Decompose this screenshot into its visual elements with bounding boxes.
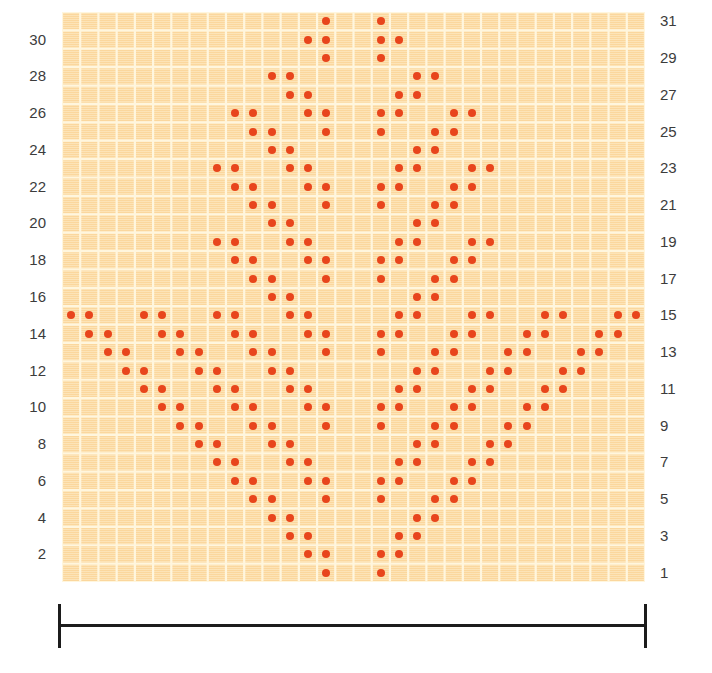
stitch-dot <box>504 422 512 430</box>
stitch-dot <box>377 403 385 411</box>
stitch-dot <box>395 550 403 558</box>
stitch-dot <box>249 275 257 283</box>
stitch-dot <box>413 164 421 172</box>
stitch-dot <box>249 348 257 356</box>
stitch-dot <box>286 146 294 154</box>
stitch-dot <box>377 495 385 503</box>
stitch-dot <box>286 219 294 227</box>
stitch-dot <box>377 17 385 25</box>
stitch-dot <box>377 183 385 191</box>
stitch-dot <box>286 514 294 522</box>
stitch-dot <box>577 348 585 356</box>
stitch-dot <box>377 201 385 209</box>
stitch-dot <box>304 550 312 558</box>
stitch-dot <box>486 440 494 448</box>
stitch-dot <box>395 256 403 264</box>
stitch-dot <box>595 330 603 338</box>
stitch-dot <box>632 311 640 319</box>
stitch-dot <box>614 330 622 338</box>
stitch-dot <box>504 367 512 375</box>
stitch-dot <box>176 403 184 411</box>
stitch-dot <box>213 458 221 466</box>
row-number-left: 30 <box>0 32 46 47</box>
stitch-dot <box>413 91 421 99</box>
stitch-dot <box>304 183 312 191</box>
stitch-dot <box>249 128 257 136</box>
stitch-dot <box>395 91 403 99</box>
stitch-dot <box>304 477 312 485</box>
row-number-left: 20 <box>0 215 46 230</box>
row-number-left: 2 <box>0 546 46 561</box>
stitch-dot <box>158 385 166 393</box>
stitch-dot <box>577 367 585 375</box>
stitch-dot <box>395 477 403 485</box>
stitch-dot <box>213 238 221 246</box>
stitch-dot <box>213 440 221 448</box>
stitch-dot <box>377 36 385 44</box>
stitch-dot <box>304 164 312 172</box>
stitch-dot <box>395 385 403 393</box>
stitch-dot <box>395 164 403 172</box>
stitch-dot <box>231 330 239 338</box>
row-number-right: 19 <box>660 234 700 249</box>
stitch-dot <box>195 422 203 430</box>
knitting-chart-figure: 30282624222018161412108642 3129272523211… <box>0 0 712 673</box>
stitch-dot <box>304 458 312 466</box>
stitch-dot <box>431 146 439 154</box>
row-number-right: 23 <box>660 160 700 175</box>
stitch-dot <box>486 458 494 466</box>
stitch-dot <box>559 367 567 375</box>
row-number-left: 4 <box>0 510 46 525</box>
stitch-dot <box>468 403 476 411</box>
stitch-dot <box>286 238 294 246</box>
stitch-dot <box>377 550 385 558</box>
stitch-dot <box>413 367 421 375</box>
stitch-dot <box>523 403 531 411</box>
stitch-dot <box>322 128 330 136</box>
stitch-dot <box>413 311 421 319</box>
row-number-right: 11 <box>660 381 700 396</box>
row-number-right: 5 <box>660 491 700 506</box>
stitch-dot <box>249 201 257 209</box>
stitch-dot <box>377 477 385 485</box>
stitch-dot <box>322 109 330 117</box>
stitch-dot <box>231 477 239 485</box>
stitch-dot <box>249 183 257 191</box>
stitch-dot <box>523 422 531 430</box>
stitch-dot-layer <box>62 12 645 582</box>
row-number-left: 22 <box>0 179 46 194</box>
stitch-dot <box>413 385 421 393</box>
stitch-dot <box>541 403 549 411</box>
stitch-dot <box>268 275 276 283</box>
stitch-dot <box>286 91 294 99</box>
stitch-dot <box>268 495 276 503</box>
stitch-dot <box>377 256 385 264</box>
stitch-dot <box>140 367 148 375</box>
row-number-left: 6 <box>0 473 46 488</box>
stitch-dot <box>486 385 494 393</box>
stitch-dot <box>322 256 330 264</box>
stitch-dot <box>431 72 439 80</box>
stitch-dot <box>413 293 421 301</box>
stitch-dot <box>304 385 312 393</box>
stitch-dot <box>450 109 458 117</box>
stitch-dot <box>249 495 257 503</box>
stitch-dot <box>450 495 458 503</box>
stitch-dot <box>195 367 203 375</box>
stitch-dot <box>468 477 476 485</box>
stitch-dot <box>104 348 112 356</box>
stitch-dot <box>140 385 148 393</box>
stitch-dot <box>304 238 312 246</box>
stitch-dot <box>322 495 330 503</box>
stitch-dot <box>195 440 203 448</box>
row-number-right: 27 <box>660 87 700 102</box>
stitch-dot <box>231 164 239 172</box>
row-number-left: 18 <box>0 252 46 267</box>
stitch-dot <box>304 109 312 117</box>
stitch-dot <box>322 201 330 209</box>
stitch-dot <box>431 275 439 283</box>
stitch-dot <box>450 422 458 430</box>
stitch-dot <box>249 330 257 338</box>
row-number-left: 8 <box>0 436 46 451</box>
width-bar-right-cap <box>644 604 647 648</box>
